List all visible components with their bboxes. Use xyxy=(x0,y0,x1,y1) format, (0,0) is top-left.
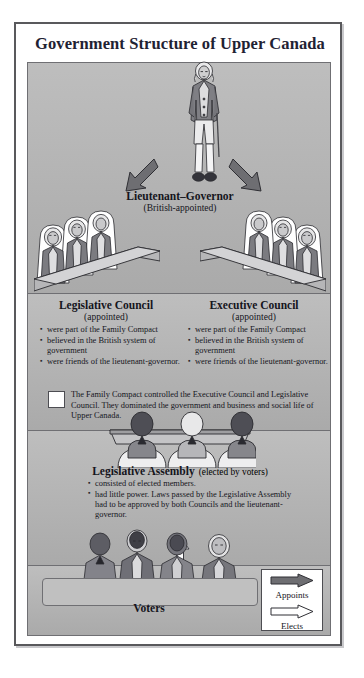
filled-arrow-right-icon xyxy=(270,573,314,588)
legend-item-appoints: Appoints xyxy=(262,573,322,600)
list-item: were part of the Family Compact xyxy=(188,325,328,335)
list-item: were friends of the lieutenant-governor. xyxy=(188,357,328,367)
list-item: were part of the Family Compact xyxy=(40,325,180,335)
executive-council-block: Executive Council (appointed) were part … xyxy=(180,299,328,368)
list-item: had little power. Laws passed by the Leg… xyxy=(88,490,303,521)
appoints-arrow-down-right-icon xyxy=(227,155,267,195)
legislative-assembly-title: Legislative Assembly xyxy=(92,465,195,477)
page-title: Government Structure of Upper Canada xyxy=(16,34,344,54)
legislative-assembly-label-block: Legislative Assembly (elected by voters) xyxy=(28,461,332,479)
executive-council-subtitle: (appointed) xyxy=(180,312,328,323)
legislative-assembly-bullets: consisted of elected members. had little… xyxy=(88,479,303,521)
legislative-council-bullets: were part of the Family Compact believed… xyxy=(32,325,180,367)
executive-council-title: Executive Council xyxy=(180,299,328,312)
legislative-assembly-subtitle: (elected by voters) xyxy=(199,467,268,477)
list-item: were friends of the lieutenant-governor. xyxy=(40,357,180,367)
legislative-council-subtitle: (appointed) xyxy=(32,312,180,323)
voters-label: Voters xyxy=(42,602,256,614)
voters-panel: Voters Appoints Elects xyxy=(27,566,331,636)
lieutenant-governor-figure-icon xyxy=(182,47,226,197)
lieutenant-governor-panel: Lieutenant–Governor (British-appointed) xyxy=(27,62,331,294)
infographic-poster: Government Structure of Upper Canada xyxy=(14,22,342,646)
legend: Appoints Elects xyxy=(261,569,323,631)
family-compact-swatch-icon xyxy=(48,391,65,408)
list-item: consisted of elected members. xyxy=(88,479,303,489)
legislative-assembly-members-icon xyxy=(104,408,256,468)
legend-label-elects: Elects xyxy=(262,622,322,631)
executive-council-bullets: were part of the Family Compact believed… xyxy=(180,325,328,367)
legislative-council-members-icon xyxy=(34,205,160,297)
legend-label-appoints: Appoints xyxy=(262,591,322,600)
legislative-assembly-bullets-block: consisted of elected members. had little… xyxy=(88,479,303,521)
legislative-council-block: Legislative Council (appointed) were par… xyxy=(32,299,180,368)
hollow-arrow-right-icon xyxy=(270,604,314,619)
legislative-council-title: Legislative Council xyxy=(32,299,180,312)
legend-item-elects: Elects xyxy=(262,604,322,631)
list-item: believed in the British system of govern… xyxy=(188,336,328,357)
lieutenant-governor-title: Lieutenant–Governor xyxy=(102,190,258,203)
list-item: believed in the British system of govern… xyxy=(40,336,180,357)
executive-council-members-icon xyxy=(200,205,326,297)
appoints-arrow-down-left-icon xyxy=(120,155,160,195)
